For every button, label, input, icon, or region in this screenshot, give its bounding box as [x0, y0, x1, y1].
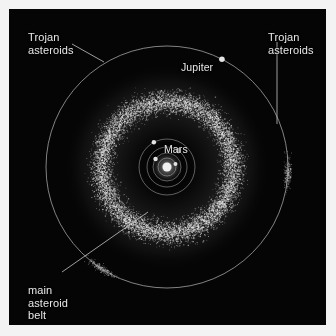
label-trojan-asteroids-right: Trojan asteroids: [268, 31, 314, 56]
diagram-panel: Trojan asteroids Trojan asteroids main a…: [9, 9, 326, 325]
label-main-asteroid-belt: main asteroid belt: [28, 284, 68, 322]
solar-system-canvas: [9, 9, 326, 325]
figure-page: Trojan asteroids Trojan asteroids main a…: [0, 0, 336, 336]
label-jupiter: Jupiter: [181, 61, 213, 74]
label-mars: Mars: [164, 143, 188, 156]
label-trojan-asteroids-left: Trojan asteroids: [28, 31, 74, 56]
